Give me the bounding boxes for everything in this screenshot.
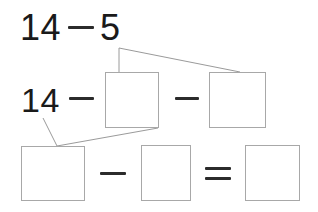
row2-minus-sign-2 [175,97,199,101]
row3-box-1[interactable] [21,146,85,201]
row1-minuend: 14 [20,10,61,46]
row2-box-1[interactable] [105,72,159,128]
row2-minuend: 14 [21,83,60,117]
row2-minus-sign-1 [69,97,94,101]
row3-equals-sign [205,167,231,183]
row1-subtrahend: 5 [100,10,121,46]
row1-minus-sign [68,26,94,30]
row2-box-2[interactable] [209,72,266,128]
connector-five-to-row2-boxes [119,48,240,72]
row3-box-2[interactable] [141,145,191,201]
math-worksheet-canvas: 14 5 14 [0,0,318,212]
row3-box-3[interactable] [245,145,300,201]
row3-minus-sign [100,172,126,176]
